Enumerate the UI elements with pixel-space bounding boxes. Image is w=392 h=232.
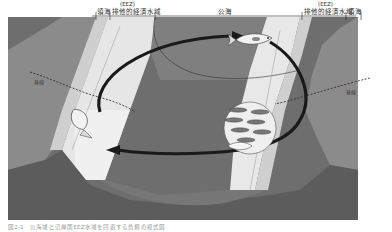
left-eez-tag: (EEZ) — [120, 2, 135, 8]
fishery-zone-diagram — [0, 0, 392, 232]
fish-school-icon — [224, 102, 276, 154]
right-eez-tag: (EEZ) — [318, 2, 333, 8]
high-seas-label: 公海 — [218, 9, 232, 16]
right-eez-label: 排他的経済水域 — [304, 9, 353, 16]
right-territorial-sea-label: 領海 — [348, 9, 362, 16]
left-territorial-sea-label: 領海 — [97, 9, 111, 16]
right-baseline-label: 基線 — [346, 88, 356, 95]
left-baseline-label: 基線 — [34, 78, 44, 85]
left-eez-label: 排他的経済水域 — [112, 9, 161, 16]
figure-caption: 図2-1 公海域と沿岸国EEZ水域を回遊する魚類の模式図 — [8, 223, 165, 231]
